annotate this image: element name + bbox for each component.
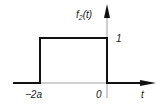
t-axis-label: t <box>141 89 145 100</box>
pulse-signal <box>13 38 145 83</box>
f-axis-arrow-icon <box>104 4 110 18</box>
x-tick-0: 0 <box>96 89 102 100</box>
pulse-diagram: f2(t) 1 −2a 0 t <box>0 0 161 107</box>
y-tick-1: 1 <box>116 33 122 44</box>
x-tick-minus-2a: −2a <box>25 89 42 100</box>
function-label: f2(t) <box>76 9 92 21</box>
